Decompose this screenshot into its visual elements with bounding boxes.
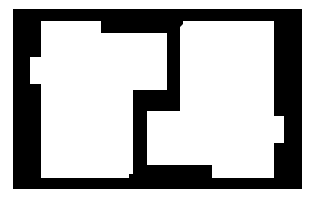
floor-plan [0,0,314,197]
